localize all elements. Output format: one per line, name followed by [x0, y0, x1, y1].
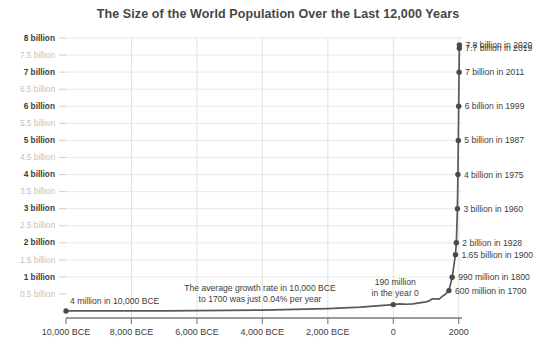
y-axis-label: 3 billion	[24, 203, 55, 213]
data-point[interactable]	[446, 288, 451, 293]
y-axis-label: 6.5 billion	[20, 84, 55, 94]
y-axis-label: 7 billion	[24, 67, 55, 77]
data-point-label: 1.65 billion in 1900	[461, 250, 533, 260]
data-point[interactable]	[454, 240, 459, 245]
y-axis-label: 4.5 billion	[20, 152, 55, 162]
data-point-label: 4 billion in 1975	[464, 170, 524, 180]
data-point[interactable]	[391, 302, 396, 307]
data-point-label: in the year 0	[372, 288, 420, 298]
population-chart: The Size of the World Population Over th…	[0, 0, 556, 355]
x-axis-label: 10,000 BCE	[42, 327, 91, 337]
data-point[interactable]	[449, 275, 454, 280]
data-point-label: 3 billion in 1960	[463, 204, 523, 214]
data-point-label: 600 million in 1700	[455, 286, 527, 296]
y-axis-label: 6 billion	[24, 101, 55, 111]
y-axis-label: 2 billion	[24, 237, 55, 247]
y-axis-label: 3.5 billion	[20, 186, 55, 196]
data-point-label: 2 billion in 1928	[462, 238, 522, 248]
x-axis-label: 0	[391, 327, 396, 337]
data-point-label: 6 billion in 1999	[465, 101, 525, 111]
y-axis-label: 8 billion	[24, 33, 55, 43]
data-point[interactable]	[456, 138, 461, 143]
y-axis-label: 5.5 billion	[20, 118, 55, 128]
y-axis-label: 2.5 billion	[20, 220, 55, 230]
data-point[interactable]	[457, 42, 462, 47]
data-point-label: 7 billion in 2011	[465, 67, 524, 77]
y-axis-label: 1 billion	[24, 272, 55, 282]
x-axis-label: 8,000 BCE	[110, 327, 154, 337]
x-axis-label: 2000	[449, 327, 469, 337]
chart-plot-area: 0.5 billion1 billion1.5 billion2 billion…	[0, 0, 556, 355]
x-axis-label: 6,000 BCE	[175, 327, 219, 337]
data-point[interactable]	[456, 104, 461, 109]
data-point[interactable]	[455, 206, 460, 211]
growth-rate-note: to 1700 was just 0.04% per year	[199, 294, 322, 304]
y-axis-label: 7.5 billion	[20, 50, 55, 60]
data-point-label: 4 million in 10,000 BCE	[70, 296, 160, 306]
data-point[interactable]	[455, 172, 460, 177]
y-axis-label: 4 billion	[24, 169, 55, 179]
data-point-label: 7.8 billion in 2020	[465, 40, 532, 50]
growth-rate-note: The average growth rate in 10,000 BCE	[184, 283, 336, 293]
x-axis-label: 2,000 BCE	[306, 327, 350, 337]
data-point[interactable]	[63, 308, 68, 313]
y-axis-label: 5 billion	[24, 135, 55, 145]
data-point[interactable]	[456, 69, 461, 74]
data-point-label: 990 million in 1800	[458, 272, 530, 282]
y-axis-label: 0.5 billion	[20, 289, 55, 299]
data-point[interactable]	[453, 252, 458, 257]
x-axis-label: 4,000 BCE	[241, 327, 285, 337]
data-point-label: 5 billion in 1987	[464, 135, 524, 145]
data-point-label: 190 million	[375, 277, 416, 287]
y-axis-label: 1.5 billion	[20, 255, 55, 265]
